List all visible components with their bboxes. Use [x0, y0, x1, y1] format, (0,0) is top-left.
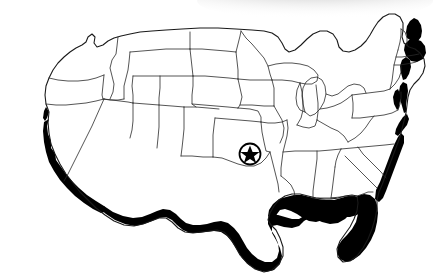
us-map-figure	[0, 0, 434, 278]
us-map-svg	[0, 0, 434, 278]
star-location-marker[interactable]	[240, 144, 261, 165]
